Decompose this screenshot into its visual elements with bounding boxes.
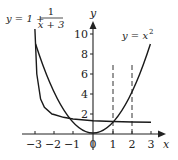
x-axis-label: x bbox=[163, 138, 170, 151]
svg-text:3: 3 bbox=[148, 138, 155, 151]
y-tick-labels: 2 4 6 8 10 bbox=[74, 28, 88, 121]
x-tick-labels: −3 −2 −1 0 1 2 3 bbox=[26, 138, 155, 151]
svg-text:4: 4 bbox=[81, 88, 88, 101]
svg-text:−2: −2 bbox=[45, 138, 61, 151]
svg-text:1: 1 bbox=[48, 6, 54, 17]
chart-figure: −3 −2 −1 0 1 2 3 x 2 4 6 8 10 y y = 1 + … bbox=[0, 0, 178, 160]
hyperbola-label: y = 1 + 1 x + 3 bbox=[5, 6, 64, 30]
y-axis-arrow-icon bbox=[90, 21, 97, 29]
svg-text:6: 6 bbox=[81, 68, 88, 81]
svg-text:2: 2 bbox=[81, 108, 88, 121]
svg-text:0: 0 bbox=[90, 138, 97, 151]
svg-text:2: 2 bbox=[129, 138, 136, 151]
svg-text:−1: −1 bbox=[64, 138, 80, 151]
svg-text:1: 1 bbox=[110, 138, 117, 151]
svg-text:−3: −3 bbox=[26, 138, 42, 151]
x-axis-arrow-icon bbox=[158, 131, 166, 138]
svg-text:y = x: y = x bbox=[121, 30, 148, 41]
y-axis-label: y bbox=[89, 7, 97, 20]
svg-text:2: 2 bbox=[149, 28, 153, 36]
svg-text:8: 8 bbox=[81, 48, 88, 61]
parabola-label: y = x 2 bbox=[121, 28, 153, 41]
svg-text:x + 3: x + 3 bbox=[38, 19, 65, 30]
svg-text:10: 10 bbox=[74, 28, 88, 41]
